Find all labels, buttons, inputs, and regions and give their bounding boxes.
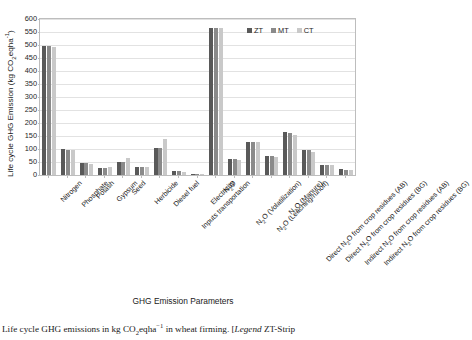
x-tick-label: Direct N2O from crop residues (BG) — [344, 180, 430, 266]
bar-mt — [307, 150, 311, 175]
legend-item-ct[interactable]: CT — [297, 26, 314, 35]
bar-ct — [182, 172, 186, 175]
x-tick-mark — [122, 176, 123, 178]
bar-ct — [349, 170, 353, 175]
y-axis-title-sup: -1 — [4, 33, 10, 38]
bar-mt — [158, 148, 162, 175]
bar-ct — [200, 174, 204, 175]
x-tick-mark — [234, 176, 235, 178]
caption-part1: Life cycle GHG emissions in kg CO — [2, 324, 136, 334]
plot-area — [39, 18, 356, 176]
bar-cluster — [225, 19, 244, 175]
bar-zt — [209, 28, 213, 175]
bar-mt — [195, 174, 199, 175]
bar-zt — [154, 148, 158, 175]
y-axis-title-mid: eqha — [6, 38, 15, 56]
bar-cluster — [114, 19, 133, 175]
y-tick-label: 350 — [25, 80, 37, 87]
y-axis-title-suffix: ) — [6, 30, 15, 33]
legend-swatch-zt — [247, 28, 252, 33]
legend-swatch-ct — [297, 28, 302, 33]
bar-zt — [117, 162, 121, 175]
bar-zt — [283, 132, 287, 175]
bar-ct — [311, 152, 315, 175]
bar-ct — [52, 47, 56, 175]
bar-mt — [66, 150, 70, 175]
x-tick-mark — [48, 176, 49, 178]
bar-mt — [84, 163, 88, 175]
legend-item-mt[interactable]: MT — [271, 26, 289, 35]
bar-zt — [61, 149, 65, 175]
y-tick-label: 600 — [25, 15, 37, 22]
x-tick-mark — [159, 176, 160, 178]
bar-cluster — [318, 19, 337, 175]
bar-zt — [191, 174, 195, 175]
bar-mt — [177, 171, 181, 175]
x-tick-label: Nitrogen — [60, 180, 84, 204]
bar-mt — [288, 133, 292, 175]
bar-ct — [237, 160, 241, 175]
bar-cluster — [244, 19, 263, 175]
y-tick-label: 200 — [25, 119, 37, 126]
legend-label-mt: MT — [278, 26, 289, 35]
bar-ct — [293, 135, 297, 175]
bar-ct — [330, 165, 334, 175]
bar-mt — [47, 46, 51, 175]
bar-ct — [126, 158, 130, 175]
y-tick-label: 0 — [33, 171, 37, 178]
caption-part2: eqha — [139, 324, 156, 334]
y-tick-label: 550 — [25, 28, 37, 35]
caption-legend-word: Legend — [235, 324, 262, 334]
bar-zt — [339, 169, 343, 175]
legend-item-zt[interactable]: ZT — [247, 26, 263, 35]
chart-legend: ZTMTCT — [247, 26, 314, 35]
bar-zt — [172, 171, 176, 175]
x-axis-labels: NitrogenPhosphatePotashGypsumSeedHerbici… — [39, 176, 356, 288]
x-tick-mark — [67, 176, 68, 178]
y-axis-ticks: 050100150200250300350400450500550600 — [16, 18, 38, 176]
x-tick-mark — [104, 176, 105, 178]
y-tick-label: 100 — [25, 145, 37, 152]
bar-cluster — [133, 19, 152, 175]
bar-zt — [80, 163, 84, 175]
caption-part3: in wheat firming. [ — [163, 324, 234, 334]
bar-cluster — [170, 19, 189, 175]
x-tick-mark — [326, 176, 327, 178]
y-tick-label: 400 — [25, 67, 37, 74]
x-tick-mark — [345, 176, 346, 178]
figure-caption: Life cycle GHG emissions in kg CO2eqha−1… — [2, 320, 364, 338]
y-tick-label: 150 — [25, 132, 37, 139]
bar-ct — [71, 150, 75, 175]
x-tick-mark — [252, 176, 253, 178]
bar-zt — [320, 165, 324, 175]
x-tick-mark — [178, 176, 179, 178]
bar-zt — [98, 168, 102, 175]
bar-zt — [135, 167, 139, 175]
bar-zt — [42, 46, 46, 175]
y-axis-title-prefix: Life cycle GHG Emission (kg CO — [6, 60, 15, 177]
bar-cluster — [336, 19, 355, 175]
bar-cluster — [207, 19, 226, 175]
x-tick-mark — [289, 176, 290, 178]
bar-mt — [325, 165, 329, 175]
bar-mt — [270, 156, 274, 175]
bar-mt — [140, 167, 144, 175]
y-tick-label: 50 — [29, 158, 37, 165]
bar-cluster — [59, 19, 78, 175]
bar-cluster — [96, 19, 115, 175]
bar-cluster — [77, 19, 96, 175]
bar-cluster — [281, 19, 300, 175]
y-tick-label: 450 — [25, 54, 37, 61]
legend-label-ct: CT — [304, 26, 314, 35]
legend-label-zt: ZT — [254, 26, 263, 35]
bar-mt — [121, 162, 125, 175]
bar-ct — [219, 28, 223, 175]
bar-mt — [233, 159, 237, 175]
x-axis-title: GHG Emission Parameters — [0, 296, 366, 306]
bar-ct — [256, 142, 260, 175]
plot-interior — [40, 19, 355, 175]
bar-mt — [344, 170, 348, 175]
bar-ct — [163, 139, 167, 175]
bar-ct — [145, 167, 149, 175]
